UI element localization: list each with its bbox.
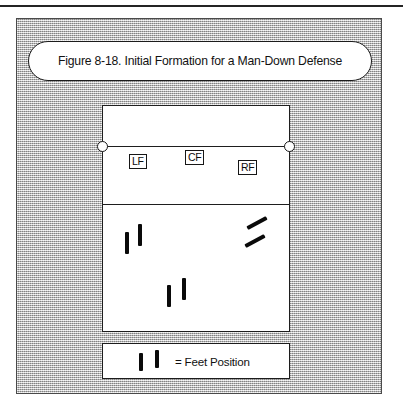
player-token-cf: CF <box>185 150 204 165</box>
legend-label: = Feet Position <box>175 355 250 368</box>
volleyball-court: LFCFRF <box>102 105 290 332</box>
foot-center-back-b <box>182 278 186 300</box>
foot-right-back-a <box>246 216 267 230</box>
legend-feet-position: = Feet Position <box>102 343 290 379</box>
legend-foot-a <box>139 353 143 371</box>
foot-left-back-a <box>125 232 129 254</box>
player-token-rf: RF <box>238 160 257 175</box>
foot-center-back-a <box>167 285 171 307</box>
player-token-lf: LF <box>129 154 147 169</box>
attack-line <box>103 204 289 205</box>
legend-foot-b <box>155 350 159 368</box>
foot-right-back-b <box>244 234 265 248</box>
figure-caption-text: Figure 8-18. Initial Formation for a Man… <box>58 54 342 68</box>
figure-caption-box: Figure 8-18. Initial Formation for a Man… <box>28 41 372 81</box>
page-rule <box>0 5 403 7</box>
net-line <box>103 146 289 147</box>
foot-left-back-b <box>138 224 142 246</box>
net-post-right-icon <box>284 141 295 152</box>
net-post-left-icon <box>97 141 108 152</box>
